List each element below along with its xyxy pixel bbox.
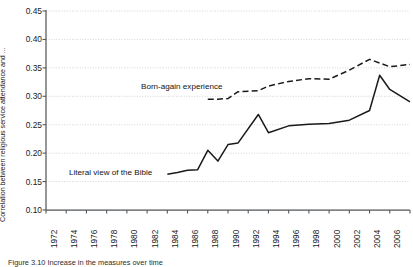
figure-caption: Figure 3.10 Increase in the measures ove… xyxy=(8,258,408,267)
literal-bible-label: Literal view of the Bible xyxy=(69,168,152,177)
figure-container: Correlation between religious service at… xyxy=(0,0,413,267)
chart-plot-area xyxy=(0,0,413,267)
born-again-label: Born-again experience xyxy=(141,82,222,91)
series-line-born-again xyxy=(208,59,410,99)
